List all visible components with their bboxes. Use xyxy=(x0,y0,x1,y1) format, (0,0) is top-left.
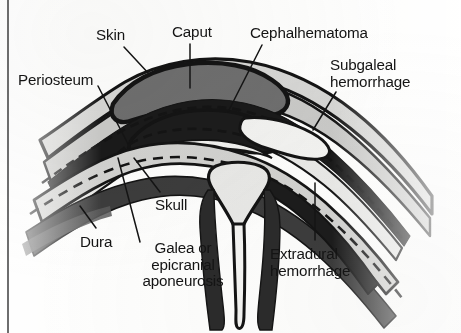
label-subgaleal-line1: Subgaleal xyxy=(330,57,410,74)
label-galea-line2: epicranial xyxy=(124,257,242,274)
label-subgaleal-line2: hemorrhage xyxy=(330,74,410,91)
label-skin: Skin xyxy=(96,27,125,44)
label-subgaleal-hemorrhage: Subgaleal hemorrhage xyxy=(330,57,410,90)
label-caput: Caput xyxy=(172,24,212,41)
label-galea-aponeurosis: Galea or epicranial aponeurosis xyxy=(124,240,242,290)
label-periosteum: Periosteum xyxy=(18,72,93,89)
anatomical-diagram-figure: Skin Caput Cephalhematoma Subgaleal hemo… xyxy=(0,0,461,333)
label-extradural-line2: hemorrhage xyxy=(270,263,350,280)
label-galea-line1: Galea or xyxy=(124,240,242,257)
label-extradural-hemorrhage: Extradural hemorrhage xyxy=(270,246,350,279)
label-skull: Skull xyxy=(155,197,187,214)
label-extradural-line1: Extradural xyxy=(270,246,350,263)
label-dura: Dura xyxy=(80,234,112,251)
label-cephalhematoma: Cephalhematoma xyxy=(250,25,368,42)
label-galea-line3: aponeurosis xyxy=(124,273,242,290)
